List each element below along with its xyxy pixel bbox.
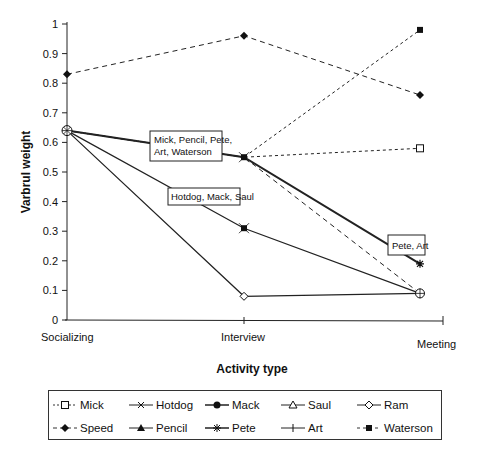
asterisk-marker-icon (205, 423, 229, 433)
svg-text:0.5: 0.5 (43, 166, 58, 178)
y-tick-labels: 0 0.1 0.2 0.3 0.4 0.5 0.6 0.7 0.8 0.9 1 (43, 18, 58, 326)
waterson-marker-3 (417, 27, 423, 33)
legend-item-mick: Mick (53, 393, 129, 416)
svg-text:0.6: 0.6 (43, 136, 58, 148)
legend-item-speed: Speed (53, 416, 129, 439)
series-lines (67, 30, 420, 296)
svg-text:0.2: 0.2 (43, 255, 58, 267)
svg-text:Meeting: Meeting (417, 338, 456, 350)
svg-text:Socializing: Socializing (41, 331, 94, 343)
svg-text:0: 0 (52, 314, 58, 326)
open-square-dotted-icon (53, 400, 77, 410)
y-axis-title: Varbrul weight (19, 131, 33, 214)
legend-item-art: Art (281, 416, 357, 439)
x-tick-labels: Socializing Interview Meeting (41, 331, 456, 350)
annotation-pete-art: Pete, Art (388, 235, 429, 255)
series-speed (67, 36, 420, 95)
filled-circle-icon (205, 400, 229, 410)
svg-text:Mick, Pencil, Pete,: Mick, Pencil, Pete, (154, 134, 232, 145)
legend-item-pencil: Pencil (129, 416, 205, 439)
x-axis (65, 316, 443, 325)
svg-text:Art, Waterson: Art, Waterson (154, 146, 212, 157)
svg-text:0.1: 0.1 (43, 284, 58, 296)
plus-marker-icon (281, 423, 305, 433)
svg-text:Pete, Art: Pete, Art (392, 240, 429, 251)
legend-item-hotdog: Hotdog (129, 393, 205, 416)
svg-text:0.7: 0.7 (43, 107, 58, 119)
annotation-mick-group: Mick, Pencil, Pete, Art, Waterson (150, 131, 232, 161)
pete-art-marker-3 (416, 260, 424, 268)
annotation-hotdog-group: Hotdog, Mack, Saul (168, 188, 254, 205)
open-triangle-icon (281, 400, 305, 410)
hotdog-x (239, 223, 249, 233)
legend-item-mack: Mack (205, 393, 281, 416)
legend-item-waterson: Waterson (357, 416, 441, 439)
speed-marker-2 (240, 32, 248, 40)
speed-marker-3 (416, 91, 424, 99)
svg-text:Hotdog, Mack, Saul: Hotdog, Mack, Saul (171, 191, 254, 202)
chart-legend: Mick Hotdog Mack Saul Ram Speed Pencil (48, 390, 442, 440)
svg-text:Interview: Interview (221, 331, 265, 343)
svg-text:1: 1 (52, 18, 58, 30)
open-diamond-icon (357, 400, 381, 410)
line-chart: 0 0.1 0.2 0.3 0.4 0.5 0.6 0.7 0.8 0.9 1 … (0, 0, 486, 390)
filled-square-dashed-icon (357, 423, 381, 433)
x-axis-title: Activity type (216, 362, 288, 376)
markers (62, 27, 425, 300)
filled-diamond-dashed-icon (53, 423, 77, 433)
svg-text:0.4: 0.4 (43, 196, 58, 208)
legend-item-ram: Ram (357, 393, 441, 416)
filled-triangle-icon (129, 423, 153, 433)
legend-item-pete: Pete (205, 416, 281, 439)
x-marker-icon (129, 400, 153, 410)
mick-marker-3 (417, 145, 424, 152)
svg-text:0.3: 0.3 (43, 225, 58, 237)
svg-text:0.8: 0.8 (43, 77, 58, 89)
series-mick (67, 131, 420, 158)
legend-item-saul: Saul (281, 393, 357, 416)
y-axis (62, 22, 67, 320)
speed-marker-1 (63, 70, 71, 78)
svg-text:0.9: 0.9 (43, 48, 58, 60)
